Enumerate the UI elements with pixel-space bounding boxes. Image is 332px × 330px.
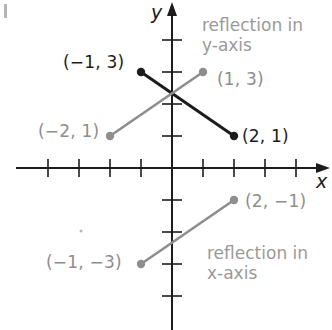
stray-dot — [80, 230, 83, 233]
x-axis-label: x — [316, 172, 327, 191]
point-dot — [230, 196, 238, 204]
y-reflection-note-line2: y-axis — [202, 35, 303, 55]
x-reflection-note-line1: reflection in — [207, 243, 308, 263]
y-reflection-note: reflection in y-axis — [202, 15, 303, 55]
x-reflection-note: reflection in x-axis — [207, 243, 308, 283]
y-reflection-note-line1: reflection in — [202, 15, 303, 35]
point-label-neg1-3: (−1, 3) — [63, 54, 124, 71]
point-label-1-3: (1, 3) — [217, 71, 264, 88]
point-label-neg1-neg3: (−1, −3) — [46, 254, 122, 271]
point-label-2-neg1: (2, −1) — [245, 193, 306, 210]
y-axis-arrow-icon — [167, 2, 177, 16]
coordinate-plane-figure: y x (−1, 3) (2, 1) (1, 3) (−2, 1) (2, −1… — [0, 0, 332, 330]
point-dot — [230, 132, 238, 140]
y-axis-label: y — [151, 3, 162, 22]
x-reflection-note-line2: x-axis — [207, 263, 308, 283]
point-label-2-1: (2, 1) — [242, 128, 289, 145]
point-dot — [106, 132, 114, 140]
point-dot — [137, 68, 145, 76]
point-dot — [137, 260, 145, 268]
point-dot — [199, 68, 207, 76]
point-label-neg2-1: (−2, 1) — [38, 123, 99, 140]
